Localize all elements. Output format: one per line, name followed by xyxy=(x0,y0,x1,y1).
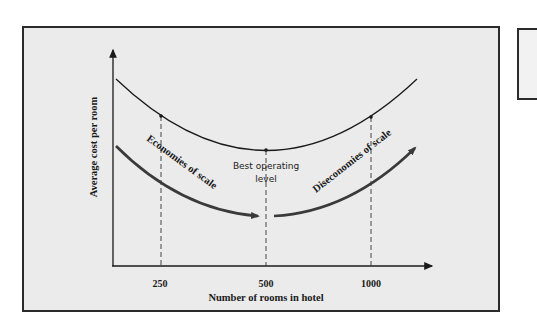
x-axis-label: Number of rooms in hotel xyxy=(208,292,323,303)
point-500 xyxy=(264,148,268,152)
diseconomies-label: Diseconomies of scale xyxy=(310,126,393,194)
point-1000 xyxy=(369,115,373,119)
tick-1000: 1000 xyxy=(361,278,381,289)
point-250 xyxy=(159,114,163,118)
best-operating-label-line2: level xyxy=(255,174,276,184)
economies-arrow xyxy=(116,146,258,216)
tick-500: 500 xyxy=(259,278,274,289)
economies-label: Economies of scale xyxy=(145,133,220,191)
tick-250: 250 xyxy=(153,278,168,289)
y-axis-label: Average cost per room xyxy=(88,96,99,197)
best-operating-label-line1: Best operating xyxy=(233,161,299,171)
